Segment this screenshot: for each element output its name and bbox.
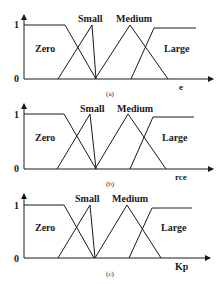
label-large: Large (162, 132, 188, 143)
label-zero: Zero (35, 222, 55, 233)
label-zero: Zero (35, 43, 55, 54)
y-tick-one: 1 (14, 19, 19, 30)
caption: (a) (106, 90, 114, 98)
label-medium: Medium (116, 13, 153, 24)
medium-set-line (95, 25, 168, 79)
label-small: Small (75, 193, 100, 204)
label-small: Small (78, 13, 103, 24)
medium-set-line (95, 205, 161, 258)
y-tick-one: 1 (14, 200, 19, 211)
label-zero: Zero (35, 132, 55, 143)
small-set-line (57, 114, 96, 169)
caption: (b) (106, 180, 115, 188)
y-tick-zero: 0 (14, 163, 19, 174)
membership-function-figure: 1 0 Zero Small Medium Large e (a) 1 0 Ze… (0, 0, 223, 284)
medium-set-line (95, 114, 166, 169)
y-tick-zero: 0 (14, 73, 19, 84)
y-tick-zero: 0 (14, 253, 19, 264)
x-axis-label: Kp (175, 261, 189, 272)
label-large: Large (164, 43, 190, 54)
large-set-line (130, 117, 194, 169)
small-set-line (58, 25, 96, 79)
x-axis-label: e (179, 82, 183, 92)
large-set-line (129, 208, 192, 258)
caption: (c) (106, 270, 114, 278)
label-medium: Medium (117, 103, 154, 114)
label-large: Large (161, 222, 187, 233)
label-small: Small (80, 103, 105, 114)
y-tick-one: 1 (14, 109, 19, 120)
x-axis-label: rce (175, 172, 187, 182)
label-medium: Medium (112, 193, 149, 204)
